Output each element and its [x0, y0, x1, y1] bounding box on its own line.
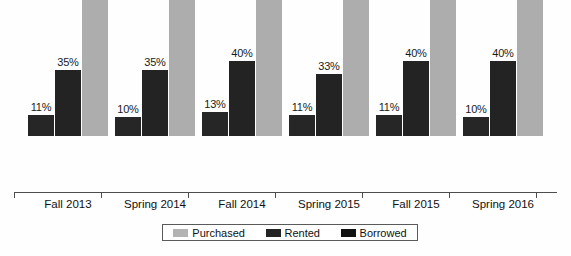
- bar-rented[interactable]: [490, 61, 516, 136]
- bar-borrowed[interactable]: [28, 115, 54, 136]
- bar-slot-borrowed: 10%: [115, 0, 141, 136]
- bar-group: 11%40%86%: [376, 0, 460, 136]
- bar-slot-borrowed: 11%: [28, 0, 54, 136]
- x-axis-category-label: Fall 2015: [366, 198, 466, 210]
- bar-group: 11%33%85%: [289, 0, 373, 136]
- bar-rented[interactable]: [229, 61, 255, 136]
- bar-borrowed[interactable]: [202, 112, 228, 136]
- plot-area: 11%35%89%10%35%84%13%40%86%11%33%85%11%4…: [0, 0, 571, 200]
- x-axis-category-label: Spring 2015: [279, 198, 379, 210]
- bar-purchased[interactable]: [517, 0, 543, 136]
- bar-borrowed[interactable]: [115, 117, 141, 136]
- legend-label: Rented: [285, 227, 320, 239]
- legend-swatch-icon: [173, 229, 188, 237]
- bar-group: 11%35%89%: [28, 0, 112, 136]
- bar-purchased[interactable]: [169, 0, 195, 136]
- bar-slot-borrowed: 13%: [202, 0, 228, 136]
- x-axis-tick: [449, 192, 450, 198]
- bar-rented[interactable]: [55, 70, 81, 136]
- chart-legend: PurchasedRentedBorrowed: [162, 224, 418, 241]
- x-axis-category-label: Fall 2013: [18, 198, 118, 210]
- bar-rented[interactable]: [142, 70, 168, 136]
- bar-group: 13%40%86%: [202, 0, 286, 136]
- x-axis-tick: [14, 192, 15, 198]
- bar-slot-purchased: 86%: [430, 0, 456, 136]
- bar-rented[interactable]: [316, 74, 342, 136]
- bar-purchased[interactable]: [82, 0, 108, 136]
- bar-slot-rented: 40%: [490, 0, 516, 136]
- bar-group: 10%35%84%: [115, 0, 199, 136]
- x-axis-category-label: Fall 2014: [192, 198, 292, 210]
- legend-label: Purchased: [192, 227, 245, 239]
- bar-chart: 11%35%89%10%35%84%13%40%86%11%33%85%11%4…: [0, 0, 571, 256]
- bar-slot-borrowed: 11%: [376, 0, 402, 136]
- bar-slot-rented: 40%: [403, 0, 429, 136]
- x-axis-line: [14, 192, 557, 193]
- x-axis-tick: [188, 192, 189, 198]
- bar-slot-rented: 35%: [55, 0, 81, 136]
- bar-borrowed[interactable]: [376, 115, 402, 136]
- bar-slot-rented: 40%: [229, 0, 255, 136]
- bar-purchased[interactable]: [430, 0, 456, 136]
- x-axis-category-label: Spring 2014: [105, 198, 205, 210]
- bar-slot-purchased: 84%: [169, 0, 195, 136]
- legend-swatch-icon: [266, 229, 281, 237]
- x-axis-tick: [362, 192, 363, 198]
- legend-item-purchased[interactable]: Purchased: [173, 227, 245, 239]
- bar-borrowed[interactable]: [289, 115, 315, 136]
- bar-slot-purchased: 86%: [256, 0, 282, 136]
- legend-item-rented[interactable]: Rented: [266, 227, 320, 239]
- bar-slot-borrowed: 10%: [463, 0, 489, 136]
- bar-slot-purchased: 85%: [343, 0, 369, 136]
- bar-purchased[interactable]: [343, 0, 369, 136]
- bar-rented[interactable]: [403, 61, 429, 136]
- bar-purchased[interactable]: [256, 0, 282, 136]
- bar-group: 10%40%82%: [463, 0, 547, 136]
- x-axis-tick: [101, 192, 102, 198]
- x-axis-tick: [275, 192, 276, 198]
- legend-item-borrowed[interactable]: Borrowed: [341, 227, 407, 239]
- x-axis-tick: [536, 192, 537, 198]
- x-axis-category-label: Spring 2016: [453, 198, 553, 210]
- legend-label: Borrowed: [360, 227, 407, 239]
- bar-slot-purchased: 82%: [517, 0, 543, 136]
- bar-slot-rented: 33%: [316, 0, 342, 136]
- bar-slot-rented: 35%: [142, 0, 168, 136]
- legend-swatch-icon: [341, 229, 356, 237]
- bar-slot-purchased: 89%: [82, 0, 108, 136]
- bar-borrowed[interactable]: [463, 117, 489, 136]
